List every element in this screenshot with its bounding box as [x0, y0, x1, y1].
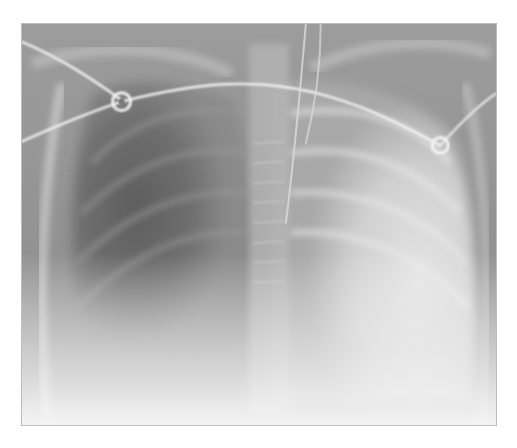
electrode-right-center — [119, 99, 125, 105]
diaphragm-region — [22, 253, 496, 425]
xray-rendering — [22, 24, 496, 425]
chest-xray-image — [21, 23, 497, 426]
